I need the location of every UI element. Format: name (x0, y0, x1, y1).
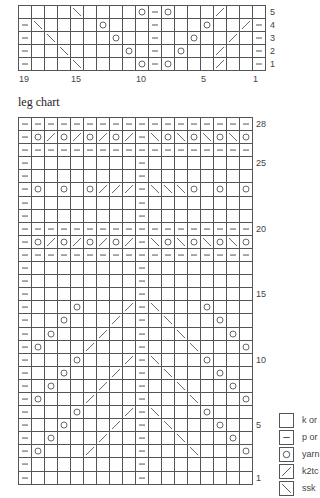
chart-cell (84, 366, 97, 379)
chart-cell (123, 157, 136, 170)
chart-cell (214, 327, 227, 340)
chart-cell (201, 183, 214, 196)
legend-label: yarn (302, 449, 320, 459)
chart-cell (149, 170, 162, 183)
chart-cell (149, 353, 162, 366)
chart-cell (214, 144, 227, 157)
chart-cell (214, 248, 227, 261)
yarn-over-circle-icon (227, 432, 239, 444)
chart-cell (201, 209, 214, 222)
chart-cell (240, 19, 253, 32)
chart-cell (188, 275, 201, 288)
purl-dash-icon (110, 249, 122, 261)
purl-dash-icon (97, 118, 109, 130)
chart-cell (149, 235, 162, 248)
chart-cell (71, 118, 84, 131)
k2tog-slash-icon (45, 236, 57, 248)
purl-dash-icon (162, 144, 174, 156)
chart-cell (32, 314, 45, 327)
chart-cell (240, 288, 253, 301)
chart-cell (58, 222, 71, 235)
chart-cell (214, 314, 227, 327)
purl-dash-icon (84, 118, 96, 130)
yarn-over-circle-icon (58, 131, 70, 143)
chart-cell (149, 275, 162, 288)
chart-cell (110, 170, 123, 183)
ssk-backslash-icon (175, 432, 187, 444)
chart-cell (214, 432, 227, 445)
leg-chart-row (19, 222, 253, 235)
chart-cell (71, 183, 84, 196)
chart-cell (149, 32, 162, 45)
chart-cell (149, 262, 162, 275)
chart-cell (227, 379, 240, 392)
purl-dash-icon (136, 406, 148, 418)
chart-cell (162, 471, 175, 484)
chart-cell (123, 379, 136, 392)
chart-cell (84, 131, 97, 144)
right-slant-icon (279, 464, 294, 479)
k2tog-slash-icon (280, 465, 293, 478)
chart-cell (58, 118, 71, 131)
chart-cell (201, 445, 214, 458)
chart-cell (240, 235, 253, 248)
k2tog-slash-icon (97, 236, 109, 248)
chart-cell (136, 288, 149, 301)
chart-cell (188, 222, 201, 235)
chart-cell (149, 209, 162, 222)
chart-cell (45, 209, 58, 222)
yarn-over-circle-icon (110, 32, 122, 44)
chart-cell (253, 45, 266, 58)
chart-cell (123, 392, 136, 405)
chart-cell (214, 445, 227, 458)
chart-cell (84, 196, 97, 209)
chart-cell (149, 118, 162, 131)
chart-cell (19, 222, 32, 235)
ssk-backslash-icon (149, 406, 161, 418)
ssk-backslash-icon (149, 183, 161, 195)
chart-cell (19, 235, 32, 248)
chart-cell (240, 58, 253, 71)
ssk-backslash-icon (188, 445, 200, 457)
chart-cell (110, 340, 123, 353)
chart-cell (214, 32, 227, 45)
chart-cell (45, 353, 58, 366)
yarn-over-circle-icon (162, 58, 174, 70)
ssk-backslash-icon (175, 183, 187, 195)
legend-label: k or (302, 415, 317, 425)
purl-dash-icon (149, 144, 161, 156)
chart-cell (240, 157, 253, 170)
purl-dash-icon (149, 223, 161, 235)
ssk-backslash-icon (280, 482, 293, 495)
chart-cell (149, 314, 162, 327)
yarn-over-circle-icon (201, 301, 213, 313)
chart-cell (58, 392, 71, 405)
chart-cell (19, 144, 32, 157)
chart-cell (19, 419, 32, 432)
chart-cell (110, 419, 123, 432)
chart-cell (19, 288, 32, 301)
yarn-over-circle-icon (227, 328, 239, 340)
chart-cell (110, 157, 123, 170)
k2tog-slash-icon (110, 419, 122, 431)
chart-cell (227, 458, 240, 471)
chart-cell (32, 327, 45, 340)
chart-cell (84, 157, 97, 170)
chart-cell (201, 406, 214, 419)
chart-cell (110, 262, 123, 275)
chart-cell (58, 340, 71, 353)
leg-chart-row (19, 183, 253, 196)
chart-cell (227, 45, 240, 58)
chart-cell (240, 118, 253, 131)
leg-chart-row (19, 144, 253, 157)
leg-chart-row (19, 209, 253, 222)
yarn-over-circle-icon (45, 380, 57, 392)
chart-cell (71, 275, 84, 288)
chart-cell (110, 445, 123, 458)
purl-dash-icon (149, 58, 161, 70)
ssk-backslash-icon (45, 32, 57, 44)
k2tog-slash-icon (214, 6, 226, 18)
chart-cell (149, 183, 162, 196)
ssk-backslash-icon (201, 236, 213, 248)
k2tog-slash-icon (123, 236, 135, 248)
